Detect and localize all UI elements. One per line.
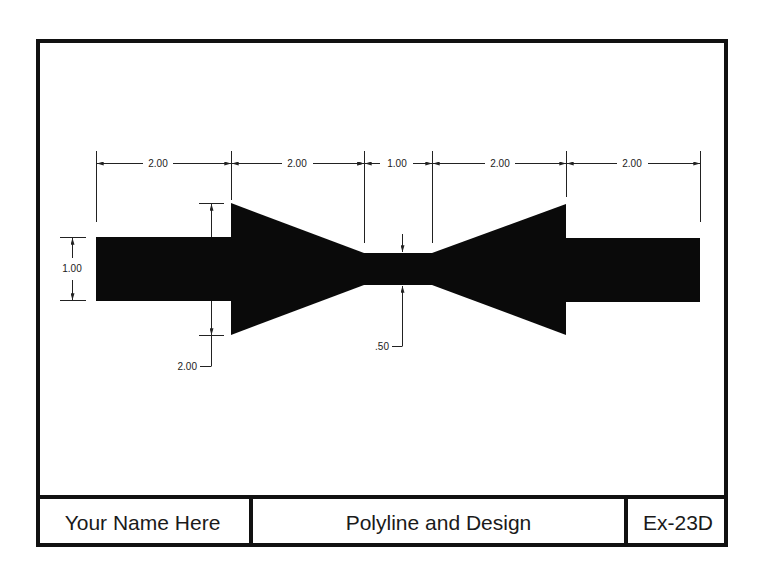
dim-label-2: 2.00 — [287, 158, 307, 169]
title-block: Your Name Here Polyline and Design Ex-23… — [36, 495, 728, 547]
dim-label-3: 1.00 — [387, 158, 407, 169]
bottom-border — [36, 543, 728, 547]
end-height-label: 1.00 — [62, 263, 82, 274]
neck-height-dimension — [392, 234, 403, 347]
dim-label-1: 2.00 — [148, 158, 168, 169]
neck-height-label: .50 — [375, 341, 389, 352]
title-block-number: Ex-23D — [628, 499, 728, 547]
dim-label-5: 2.00 — [622, 158, 642, 169]
title-block-title: Polyline and Design — [253, 499, 628, 547]
dim-label-4: 2.00 — [490, 158, 510, 169]
title-block-name: Your Name Here — [36, 499, 253, 547]
polyline-shape — [96, 203, 700, 335]
flare-height-label: 2.00 — [178, 361, 198, 372]
